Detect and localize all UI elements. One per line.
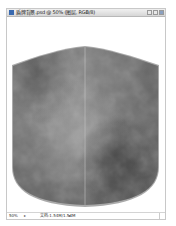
canvas-area[interactable] [7, 17, 165, 213]
document-window: 盾牌背景.psd @ 50% (图层, RGB/8) [6, 8, 166, 220]
photoshop-doc-icon [9, 10, 14, 15]
shield-graphic [7, 17, 165, 213]
window-title: 盾牌背景.psd @ 50% (图层, RGB/8) [16, 9, 95, 16]
title-bar[interactable]: 盾牌背景.psd @ 50% (图层, RGB/8) [7, 9, 165, 17]
window-controls [147, 10, 164, 15]
maximize-button[interactable] [153, 10, 158, 15]
resize-grip[interactable] [159, 213, 165, 219]
close-button[interactable] [159, 10, 164, 15]
status-bar: 50% ▸ 文档:1.54M/1.54M ▸ [7, 212, 165, 219]
status-separator-icon: ▸ [24, 214, 26, 218]
status-menu-arrow-icon[interactable]: ▸ [69, 213, 71, 219]
minimize-button[interactable] [147, 10, 152, 15]
zoom-level[interactable]: 50% [9, 213, 18, 219]
